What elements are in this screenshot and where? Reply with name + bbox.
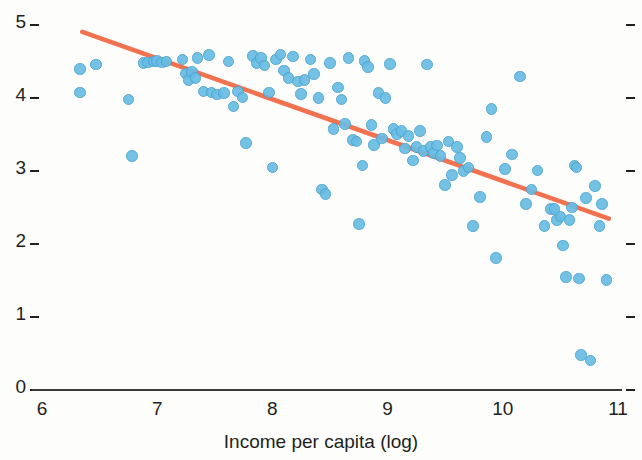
data-point: [320, 188, 332, 200]
data-point: [339, 118, 351, 130]
data-point: [376, 133, 388, 145]
data-point: [357, 160, 369, 172]
data-point: [324, 57, 336, 69]
data-point: [343, 52, 355, 64]
data-point: [451, 141, 463, 153]
data-point: [557, 240, 569, 252]
right-tick-mark: [626, 389, 635, 391]
data-point: [240, 137, 252, 149]
data-point: [446, 169, 458, 181]
data-point: [366, 119, 378, 131]
data-point: [263, 87, 275, 99]
data-point: [580, 192, 592, 204]
data-point: [481, 131, 493, 143]
y-tick-mark: [30, 24, 39, 26]
data-point: [295, 88, 307, 100]
y-tick-label: 1: [4, 304, 26, 323]
data-point: [601, 274, 613, 286]
data-point: [596, 198, 608, 210]
data-point: [351, 136, 363, 148]
data-point: [435, 150, 447, 162]
data-point: [203, 49, 215, 61]
data-point: [520, 198, 532, 210]
data-point: [467, 220, 479, 232]
y-tick-label: 2: [4, 231, 26, 250]
x-tick-label: 7: [142, 399, 172, 418]
data-point: [353, 218, 365, 230]
data-point: [439, 179, 451, 191]
data-point: [573, 273, 585, 285]
data-point: [380, 92, 392, 104]
scatter-plot-figure: 012345 67891011 Income per capita (log): [0, 0, 642, 460]
data-point: [403, 130, 415, 142]
data-point: [490, 252, 502, 264]
y-tick-label: 5: [4, 12, 26, 31]
y-tick-label: 4: [4, 85, 26, 104]
right-tick-mark: [626, 243, 635, 245]
x-tick-label: 9: [373, 399, 403, 418]
data-point: [407, 155, 419, 167]
data-point: [486, 103, 498, 115]
x-tick-label: 8: [257, 399, 287, 418]
data-point: [126, 150, 138, 162]
y-tick-mark: [30, 316, 39, 318]
right-tick-mark: [626, 170, 635, 172]
x-axis-line: [32, 389, 622, 391]
data-point: [328, 123, 340, 135]
y-tick-mark: [30, 97, 39, 99]
data-point: [566, 202, 578, 214]
data-point: [259, 60, 271, 72]
data-point: [594, 220, 606, 232]
data-point: [313, 92, 325, 104]
data-point: [74, 63, 86, 75]
data-point: [332, 82, 344, 94]
data-point: [454, 152, 466, 164]
data-point: [287, 51, 299, 63]
y-tick-label: 0: [4, 377, 26, 396]
data-point: [74, 87, 86, 99]
data-point: [585, 355, 597, 367]
right-tick-mark: [626, 97, 635, 99]
data-point: [589, 180, 601, 192]
x-axis-title: Income per capita (log): [181, 432, 461, 451]
data-point: [384, 58, 396, 70]
right-tick-mark: [626, 316, 635, 318]
data-point: [190, 72, 202, 84]
x-tick-label: 6: [27, 399, 57, 418]
data-point: [192, 52, 204, 64]
y-tick-mark: [30, 243, 39, 245]
y-tick-label: 3: [4, 158, 26, 177]
y-tick-mark: [30, 170, 39, 172]
data-point: [474, 191, 486, 203]
data-point: [514, 71, 526, 83]
data-point: [308, 68, 320, 80]
data-point: [218, 87, 230, 99]
right-tick-mark: [626, 24, 635, 26]
data-point: [399, 143, 411, 155]
data-point: [506, 149, 518, 161]
data-point: [414, 125, 426, 137]
x-tick-label: 11: [603, 399, 633, 418]
data-point: [362, 61, 374, 73]
x-tick-label: 10: [488, 399, 518, 418]
data-point: [421, 59, 433, 71]
data-point: [539, 220, 551, 232]
data-point: [499, 163, 511, 175]
data-point: [228, 101, 240, 113]
data-point: [560, 271, 572, 283]
